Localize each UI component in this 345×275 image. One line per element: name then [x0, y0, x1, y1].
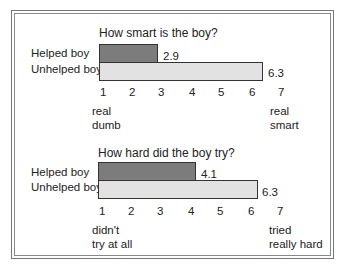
x-tick: 2 [128, 204, 134, 218]
chart-title: How smart is the boy? [99, 26, 218, 40]
x-tick: 6 [249, 85, 255, 99]
category-label: Unhelped boy [31, 180, 102, 194]
x-tick: 5 [217, 204, 223, 218]
bar-unhelped [99, 62, 263, 81]
x-tick: 3 [157, 204, 163, 218]
x-tick: 1 [100, 85, 106, 99]
scale-low-label: didn't [92, 223, 119, 237]
bar-unhelped [98, 180, 258, 199]
x-tick: 4 [189, 85, 195, 99]
x-tick: 1 [99, 204, 105, 218]
scale-high-label: tried [269, 223, 291, 237]
x-tick: 2 [129, 85, 135, 99]
x-tick: 7 [277, 204, 283, 218]
figure-caption-cutoff [10, 268, 260, 274]
x-tick: 4 [188, 204, 194, 218]
category-label: Helped boy [31, 165, 89, 179]
scale-low-label: real [92, 104, 111, 118]
x-tick: 5 [218, 85, 224, 99]
scale-high-label: real [270, 104, 289, 118]
value-label: 4.1 [201, 167, 217, 181]
category-label: Unhelped boy [31, 62, 102, 76]
value-label: 6.3 [262, 185, 278, 199]
category-label: Helped boy [31, 46, 89, 60]
scale-low-label: dumb [92, 118, 121, 132]
value-label: 6.3 [268, 66, 284, 80]
chart-title: How hard did the boy try? [98, 146, 235, 160]
value-label: 2.9 [163, 49, 179, 63]
bar-helped [99, 44, 158, 63]
x-tick: 7 [278, 85, 284, 99]
x-tick: 3 [158, 85, 164, 99]
scale-high-label: smart [270, 118, 299, 132]
scale-low-label: try at all [92, 237, 132, 251]
scale-high-label: really hard [269, 237, 323, 251]
x-tick: 6 [248, 204, 254, 218]
bar-helped [98, 162, 196, 181]
